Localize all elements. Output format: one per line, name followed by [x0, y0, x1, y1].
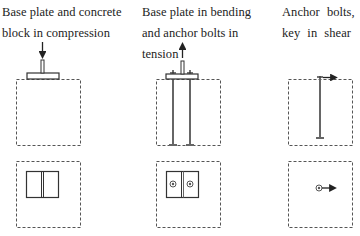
panel-shear-plan: [289, 162, 353, 228]
concrete-block-outline: [17, 80, 81, 146]
base-plate-plan: [167, 172, 199, 198]
bolt-ring-icon: [189, 183, 191, 185]
bolt-ring-icon: [172, 183, 174, 185]
panel-compression-elevation: [17, 42, 81, 146]
concrete-block-outline: [157, 80, 221, 146]
column-stem: [41, 60, 44, 73]
diagram-canvas: [0, 0, 360, 236]
bolt-ring-icon: [318, 187, 320, 189]
panel-compression-plan: [17, 162, 81, 228]
column-stem: [181, 61, 184, 74]
base-plate: [166, 74, 198, 79]
base-plate: [27, 73, 59, 79]
panel-tension-plan: [157, 162, 221, 228]
base-plate-plan: [27, 172, 59, 198]
panel-shear-elevation: [289, 76, 353, 146]
panel-tension-elevation: [157, 46, 221, 146]
concrete-block-plan-outline: [289, 162, 353, 228]
